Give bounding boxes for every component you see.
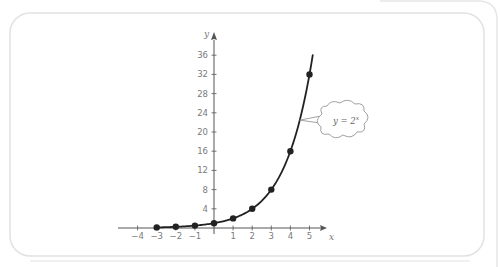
y-tick-label: 36: [197, 50, 208, 60]
data-point: [211, 220, 217, 226]
x-tick-label: −1: [189, 231, 202, 241]
data-point: [230, 215, 236, 221]
data-point: [154, 224, 160, 230]
y-axis-label: y: [203, 29, 210, 39]
x-tick-label: −3: [150, 231, 163, 241]
x-tick-label: 3: [269, 231, 274, 241]
data-point: [192, 222, 198, 228]
callout-label: y = 2x: [332, 114, 360, 126]
y-tick-label: 4: [203, 204, 208, 214]
y-tick-label: 24: [197, 108, 208, 118]
x-tick-label: 4: [288, 231, 293, 241]
data-point: [249, 206, 255, 212]
x-tick-label: 2: [249, 231, 254, 241]
x-tick-label: −2: [170, 231, 183, 241]
x-axis-label: x: [329, 232, 334, 242]
y-tick-label: 16: [197, 146, 208, 156]
x-tick-label: −4: [131, 231, 144, 241]
y-tick-label: 20: [197, 127, 208, 137]
y-tick-label: 32: [197, 69, 208, 79]
y-tick-label: 28: [197, 89, 208, 99]
y-tick-label: 8: [203, 185, 208, 195]
inner-frame: [10, 13, 484, 256]
data-point: [287, 148, 293, 154]
frame: [10, 1, 497, 267]
data-point: [268, 186, 274, 192]
x-tick-label: 1: [230, 231, 235, 241]
data-point: [173, 224, 179, 230]
data-point: [306, 71, 312, 77]
y-tick-label: 12: [197, 165, 208, 175]
exponential-chart: xy −4−3−2−1123454812162024283236 y = 2x: [0, 0, 500, 267]
x-tick-label: 5: [307, 231, 312, 241]
